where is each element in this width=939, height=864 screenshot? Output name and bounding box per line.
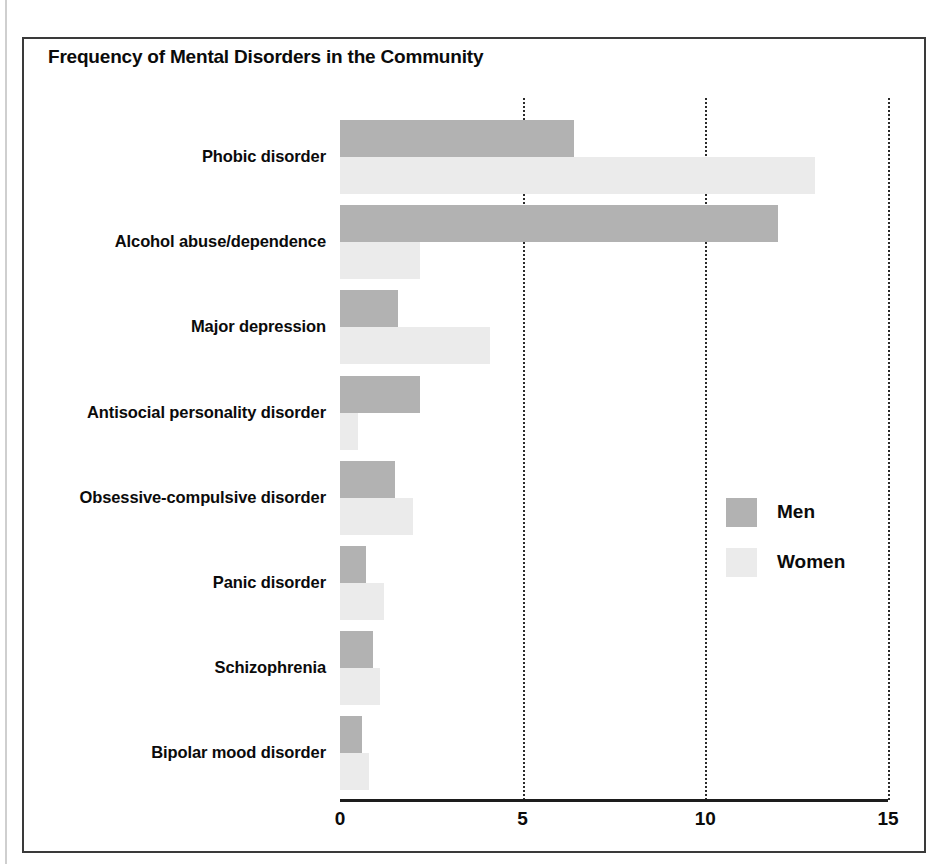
figure-frame xyxy=(22,37,926,853)
legend-item-women: Women xyxy=(726,537,896,587)
legend-label-men: Men xyxy=(777,501,815,523)
legend-item-men: Men xyxy=(726,487,896,537)
figure-title: Frequency of Mental Disorders in the Com… xyxy=(48,46,483,68)
legend-label-women: Women xyxy=(777,551,845,573)
figure-bottom-rule xyxy=(22,851,926,853)
x-axis-line xyxy=(340,799,888,802)
legend-swatch-women-icon xyxy=(726,548,757,577)
page-edge-rule xyxy=(5,0,7,864)
legend-swatch-men-icon xyxy=(726,498,757,527)
chart-legend: Men Women xyxy=(726,487,896,587)
